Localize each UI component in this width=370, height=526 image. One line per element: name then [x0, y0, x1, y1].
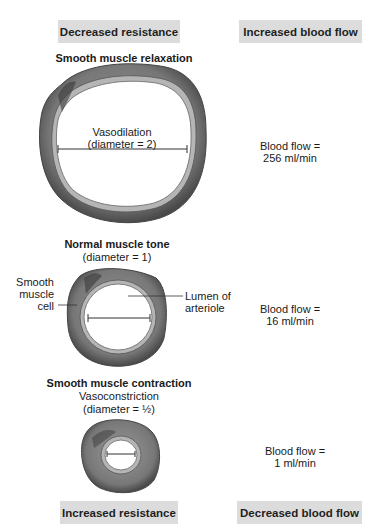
- decreased-blood-flow-label: Decreased blood flow: [237, 501, 362, 524]
- vasoconstriction-label: Vasoconstriction: [64, 390, 174, 403]
- flow-256-value: 256 ml/min: [250, 152, 330, 165]
- increased-resistance-label: Increased resistance: [60, 501, 178, 524]
- diameter-1-label: (diameter = 1): [72, 251, 162, 264]
- lumen-label-line2: arteriole: [185, 302, 225, 315]
- constricted-vessel: [82, 420, 160, 493]
- contraction-title: Smooth muscle contraction: [44, 377, 194, 390]
- smooth-muscle-cell-line3: cell: [8, 300, 54, 313]
- diameter-2-label: (diameter = 2): [72, 138, 172, 151]
- normal-tone-title: Normal muscle tone: [62, 238, 172, 251]
- flow-1-value: 1 ml/min: [255, 457, 335, 470]
- relaxation-title: Smooth muscle relaxation: [54, 52, 194, 65]
- flow-16-value: 16 ml/min: [250, 315, 330, 328]
- diameter-half-label: (diameter = ½): [64, 403, 174, 416]
- normal-vessel: [58, 269, 183, 367]
